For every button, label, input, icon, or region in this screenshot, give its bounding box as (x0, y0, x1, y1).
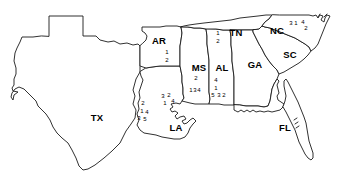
state-label-ar: AR (152, 35, 166, 46)
state-label-ms: MS (192, 62, 207, 73)
state-label-sc: SC (283, 49, 297, 60)
state-label-tx: TX (91, 112, 104, 123)
state-label-tn: TN (229, 27, 242, 38)
state-shape-fl-peninsula[interactable] (283, 79, 313, 160)
state-label-la: LA (169, 122, 182, 133)
state-label-al: AL (215, 62, 228, 73)
state-shape-tx[interactable] (11, 16, 140, 170)
state-label-fl: FL (279, 122, 291, 133)
us-southeast-map: TX AR LA MS AL TN GA NC SC FL 1 2 1 2 3 … (0, 0, 339, 179)
state-shape-tn[interactable] (181, 15, 272, 30)
state-label-ga: GA (248, 59, 263, 70)
state-label-nc: NC (270, 25, 284, 36)
state-shape-ar[interactable] (140, 26, 182, 68)
map-canvas: TX AR LA MS AL TN GA NC SC FL 1 2 1 2 3 … (0, 0, 339, 179)
